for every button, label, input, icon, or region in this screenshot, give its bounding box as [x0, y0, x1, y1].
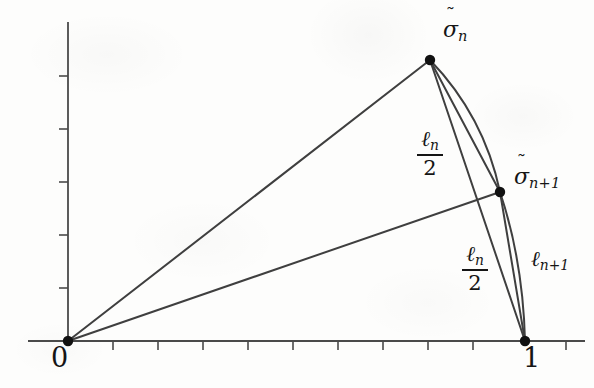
ell-n-over-2-upper-ell-glyph: ℓ [421, 127, 430, 151]
ell-n-over-2-upper-denominator: 2 [421, 156, 438, 179]
ell-n-plus-1-subscript: n+1 [540, 257, 569, 273]
segment-group [68, 60, 525, 341]
ell-n-over-2-lower-label: ℓn 2 [462, 243, 488, 294]
chord-sigma-n-plus-1-to-unit [500, 192, 525, 341]
ell-n-plus-1-label: ℓn+1 [531, 249, 569, 273]
sigma-n-tilde-accent: ˜ [446, 6, 455, 25]
sigma-n-label: ˜σn [443, 19, 468, 44]
point-sigma-n [425, 55, 435, 65]
y-axis-ticks [59, 76, 68, 288]
sigma-n-plus-1-symbol: ˜σ [514, 166, 529, 188]
sigma-n-plus-1-label: ˜σn+1 [514, 166, 560, 191]
sigma-n-subscript: n [458, 28, 468, 44]
ell-n-over-2-upper-fraction: ℓn 2 [417, 128, 443, 179]
ell-n-over-2-upper-subscript: n [430, 137, 439, 153]
ell-n-over-2-lower-numerator: ℓn [464, 243, 486, 269]
ell-n-over-2-lower-fraction: ℓn 2 [462, 243, 488, 294]
x-axis-ticks [113, 341, 566, 350]
chord-sigma-n-to-unit [430, 60, 525, 341]
ell-n-plus-1-glyph: ℓ [531, 247, 540, 271]
ray-origin-to-sigma-n-plus-1 [68, 192, 500, 341]
sigma-n-plus-1-subscript: n+1 [529, 175, 560, 191]
unit-label: 1 [523, 344, 540, 371]
ell-n-over-2-upper-numerator: ℓn [419, 128, 441, 154]
geometric-diagram-figure: 0 1 ˜σn ˜σn+1 ℓn 2 ℓn 2 ℓn+1 [0, 0, 594, 388]
ell-n-over-2-lower-denominator: 2 [466, 271, 483, 294]
point-sigma-n-plus-1 [495, 187, 505, 197]
ell-n-over-2-lower-ell-glyph: ℓ [466, 242, 475, 266]
ell-n-over-2-upper-label: ℓn 2 [417, 128, 443, 179]
sigma-n-plus-1-tilde-accent: ˜ [517, 153, 526, 172]
diagram-canvas [0, 0, 594, 388]
origin-label: 0 [51, 344, 68, 371]
ell-n-over-2-lower-subscript: n [475, 252, 484, 268]
ray-origin-to-sigma-n [68, 60, 430, 341]
axis-group [28, 22, 585, 350]
sigma-n-symbol: ˜σ [443, 19, 458, 41]
